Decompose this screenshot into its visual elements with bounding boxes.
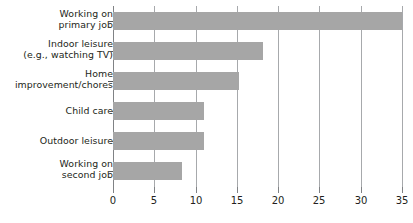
x-tick-35: [402, 187, 403, 193]
x-axis-ticks: [113, 187, 402, 193]
category-label-3-line-0: Child care: [5, 105, 113, 116]
gridline-15: [237, 6, 238, 187]
bar-working-on-primary-job: [113, 12, 402, 30]
gridline-25: [319, 6, 320, 187]
x-tick-20: [278, 187, 279, 193]
x-tick-label-30: 30: [341, 194, 381, 207]
category-label-2-line-1: improvement/chores: [5, 79, 113, 90]
plot-area: [113, 6, 402, 187]
category-label-5: Working on second job: [5, 158, 113, 181]
x-tick-5: [154, 187, 155, 193]
category-label-1-line-1: (e.g., watching TV): [5, 49, 113, 60]
category-label-2: Home improvement/chores: [5, 68, 113, 91]
bar-chart: Working on primary job Indoor leisure (e…: [0, 0, 413, 223]
category-label-1: Indoor leisure (e.g., watching TV): [5, 38, 113, 61]
category-label-0-line-1: primary job: [5, 19, 113, 30]
x-tick-15: [237, 187, 238, 193]
x-tick-label-5: 5: [134, 194, 174, 207]
gridline-35: [402, 6, 403, 187]
x-tick-10: [196, 187, 197, 193]
x-axis-tick-labels: 0 5 10 15 20 25 30 35: [0, 194, 413, 212]
bar-outdoor-leisure: [113, 132, 204, 150]
x-tick-label-10: 10: [176, 194, 216, 207]
bar-working-on-second-job: [113, 162, 182, 180]
category-label-4: Outdoor leisure: [5, 135, 113, 146]
category-label-1-line-0: Indoor leisure: [5, 38, 113, 49]
category-label-0-line-0: Working on: [5, 8, 113, 19]
category-label-2-line-0: Home: [5, 68, 113, 79]
category-label-0: Working on primary job: [5, 8, 113, 31]
category-axis: Working on primary job Indoor leisure (e…: [0, 6, 113, 187]
gridline-30: [361, 6, 362, 187]
category-label-5-line-1: second job: [5, 169, 113, 180]
gridline-10: [196, 6, 197, 187]
x-tick-25: [319, 187, 320, 193]
category-label-5-line-0: Working on: [5, 158, 113, 169]
x-tick-label-15: 15: [217, 194, 257, 207]
x-tick-label-20: 20: [258, 194, 298, 207]
x-tick-0: [113, 187, 114, 193]
x-tick-label-35: 35: [382, 194, 413, 207]
category-label-4-line-0: Outdoor leisure: [5, 135, 113, 146]
gridline-0: [113, 6, 114, 187]
category-label-3: Child care: [5, 105, 113, 116]
x-tick-30: [361, 187, 362, 193]
gridline-20: [278, 6, 279, 187]
bar-home-improvement-chores: [113, 72, 239, 90]
x-tick-label-25: 25: [299, 194, 339, 207]
bar-child-care: [113, 102, 204, 120]
bar-indoor-leisure: [113, 42, 263, 60]
x-tick-label-0: 0: [93, 194, 133, 207]
gridline-5: [154, 6, 155, 187]
